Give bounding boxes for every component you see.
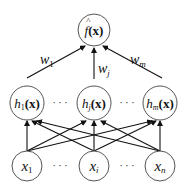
svg-text:hm(x): hm(x): [146, 96, 173, 112]
input-node-xi: xi: [79, 151, 109, 181]
input-node-x1: x1: [12, 151, 42, 181]
output-node: f(x) ^: [78, 14, 110, 46]
hidden-node-h1: h1(x): [10, 86, 44, 120]
edge-xi-hm: [94, 121, 156, 151]
edge-xi-h1: [32, 121, 94, 151]
hidden-node-hj: hj(x): [77, 86, 111, 120]
input-edges: [27, 121, 160, 151]
edge-xn-hj: [101, 121, 160, 151]
weight-w1: w1: [40, 52, 54, 69]
svg-text:hj(x): hj(x): [82, 96, 106, 112]
input-ellipsis-right: · · ·: [120, 160, 135, 171]
network-diagram: w1 wj wm f(x) ^ h1(x) hj(x) hm(x) · · · …: [0, 0, 187, 190]
svg-text:h1(x): h1(x): [14, 96, 40, 112]
input-ellipsis-left: · · ·: [53, 160, 68, 171]
weight-wm: wm: [130, 52, 146, 69]
hidden-node-hm: hm(x): [143, 86, 177, 120]
hidden-layer: h1(x) hj(x) hm(x) · · · · · ·: [10, 86, 177, 120]
hidden-ellipsis-right: · · ·: [120, 97, 135, 108]
input-layer: x1 xi xn · · · · · ·: [12, 151, 175, 181]
input-node-xn: xn: [145, 151, 175, 181]
hidden-ellipsis-left: · · ·: [53, 97, 68, 108]
weight-wj: wj: [98, 61, 110, 78]
weight-labels: w1 wj wm: [40, 52, 146, 78]
edge-x1-hm: [27, 121, 152, 151]
edge-h1-f: [27, 46, 85, 78]
